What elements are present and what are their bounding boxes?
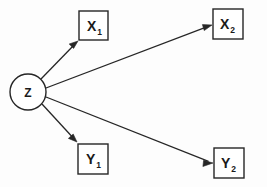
edge-z-to-x1-arrowhead <box>69 41 78 48</box>
diagram-svg: Z X1 X2 Y1 Y2 <box>0 0 267 187</box>
edge-z-to-y2 <box>46 97 213 167</box>
node-x1-subscript: 1 <box>97 27 102 37</box>
node-y1-subscript: 1 <box>96 160 101 170</box>
node-z-label: Z <box>24 86 31 100</box>
node-y1-base: Y <box>86 151 96 167</box>
edge-z-to-x2 <box>46 25 212 88</box>
node-x2[interactable]: X2 <box>213 9 243 39</box>
node-y2[interactable]: Y2 <box>214 148 244 178</box>
edge-z-to-x2-arrowhead <box>202 25 212 31</box>
edge-z-to-y1-line <box>42 104 74 138</box>
edge-z-to-y2-line <box>46 97 209 161</box>
node-z[interactable]: Z <box>10 74 46 110</box>
edge-z-to-x1 <box>41 41 78 79</box>
node-x2-subscript: 2 <box>230 25 235 35</box>
node-y2-subscript: 2 <box>231 164 236 174</box>
node-y1[interactable]: Y1 <box>78 144 108 174</box>
node-x1[interactable]: X1 <box>79 11 108 40</box>
node-x1-base: X <box>87 18 97 34</box>
node-x2-base: X <box>220 16 230 32</box>
edge-z-to-y1-arrowhead <box>68 134 77 142</box>
node-y2-base: Y <box>221 155 231 171</box>
edge-z-to-x1-line <box>41 45 75 80</box>
path-diagram-canvas: Z X1 X2 Y1 Y2 <box>0 0 267 187</box>
edge-z-to-y1 <box>42 104 77 142</box>
edge-z-to-x2-line <box>46 27 208 88</box>
